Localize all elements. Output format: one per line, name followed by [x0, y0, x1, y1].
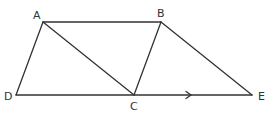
segment-be [161, 22, 252, 95]
label-d: D [4, 90, 12, 103]
label-c: C [130, 100, 138, 113]
geometry-diagram: A B C D E [0, 0, 273, 119]
diagram-svg: A B C D E [0, 0, 273, 119]
label-a: A [33, 9, 41, 22]
segment-bc [134, 22, 161, 95]
segment-ac [43, 22, 134, 95]
segment-ad [16, 22, 43, 95]
label-e: E [258, 90, 265, 103]
label-b: B [157, 7, 165, 20]
